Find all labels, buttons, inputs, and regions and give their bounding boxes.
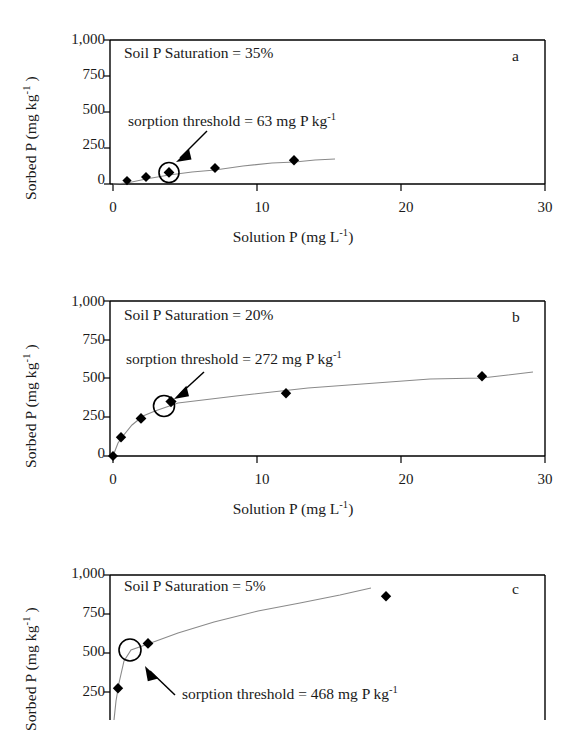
panel-a-axes (110, 40, 545, 184)
panel-b-x-ticks (113, 456, 545, 463)
panel-b-y-ticks (104, 301, 110, 456)
panel-a-x-ticks (113, 184, 545, 191)
panel-c-threshold-arrow (145, 666, 175, 695)
panel-c: Sorbed P (mg kg-1 ) 1,000 750 500 250 So… (0, 533, 586, 720)
panel-a-plot (0, 0, 586, 258)
panel-b-fit-curve (113, 372, 533, 456)
panel-b: Sorbed P (mg kg-1 ) 1,000 750 500 250 0 … (0, 268, 586, 526)
panel-b-threshold-arrow (174, 372, 204, 399)
panel-a-y-ticks (104, 40, 110, 184)
panel-c-threshold-circle (119, 639, 141, 661)
panel-b-x-axis-label: Solution P (mg L-1) (0, 500, 586, 518)
panel-b-plot (0, 268, 586, 526)
panel-a-x-axis-label: Solution P (mg L-1) (0, 228, 586, 246)
panel-c-y-ticks (104, 575, 110, 692)
panel-c-axes (110, 575, 545, 720)
panel-a-threshold-arrow (176, 131, 207, 162)
panel-a: Sorbed P (mg kg-1 ) 1,000 750 500 250 0 … (0, 0, 586, 258)
panel-c-plot (0, 533, 586, 720)
panel-c-fit-curve (114, 588, 371, 720)
